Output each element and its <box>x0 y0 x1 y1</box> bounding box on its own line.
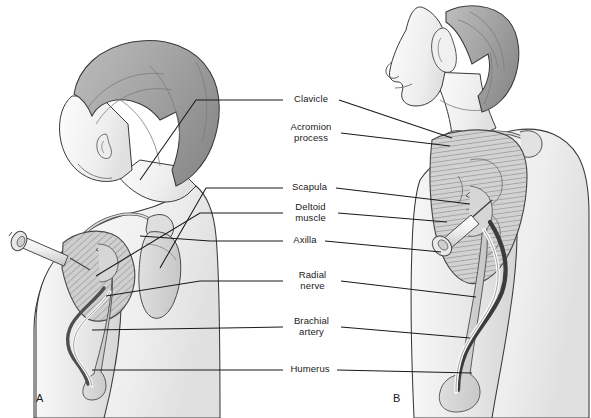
label-brachial-artery: Brachial artery <box>282 316 341 337</box>
panel-a-artwork <box>8 40 220 418</box>
panel-label-b: B <box>393 392 400 404</box>
panel-label-a: A <box>36 392 43 404</box>
label-clavicle: Clavicle <box>283 94 339 105</box>
panel-b-artwork <box>386 6 589 418</box>
label-radial-nerve: Radial nerve <box>284 270 341 291</box>
leader-clavicle-right <box>339 100 452 138</box>
label-humerus: Humerus <box>283 364 337 375</box>
child-syringe-ring <box>9 232 12 236</box>
label-axilla: Axilla <box>285 235 325 246</box>
label-scapula: Scapula <box>283 182 336 193</box>
anatomy-figure: Clavicle Acromion process Scapula Deltoi… <box>0 0 591 418</box>
label-deltoid-muscle: Deltoid muscle <box>283 202 338 223</box>
label-acromion-process: Acromion process <box>281 122 341 143</box>
